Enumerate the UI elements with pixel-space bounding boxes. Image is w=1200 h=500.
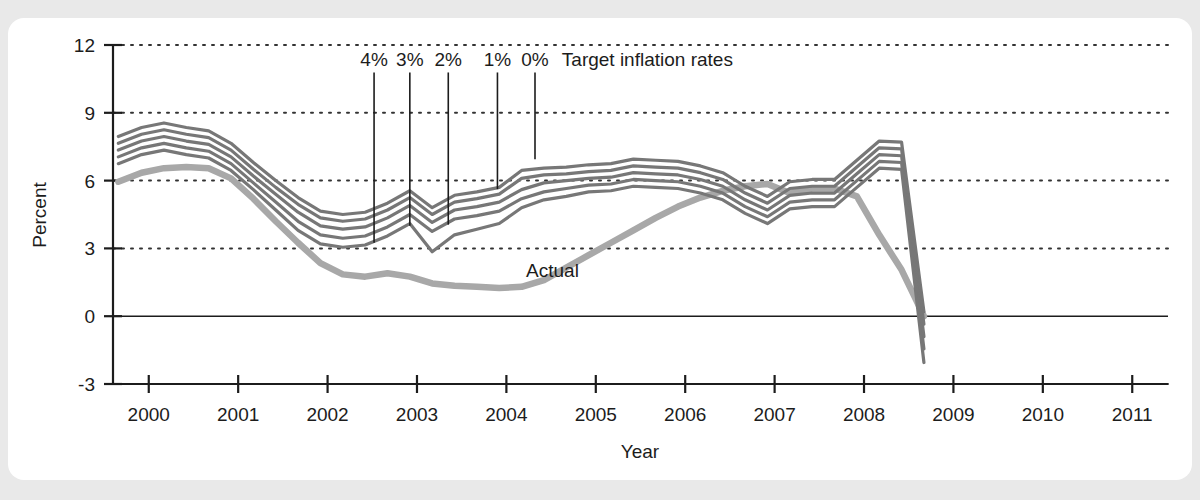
y-tick-label: 6 (84, 171, 95, 192)
y-tick-label: 3 (84, 238, 95, 259)
forecast-series-line (118, 130, 924, 324)
x-tick-label: 2007 (753, 404, 795, 425)
forecast-series-line (118, 123, 924, 312)
x-axis-ticks: 2000200120022003200420052006200720082009… (128, 375, 1153, 425)
chart-annotation: Target inflation rates (562, 49, 733, 70)
x-tick-label: 2001 (217, 404, 259, 425)
target-pointer-label: 3% (396, 49, 424, 70)
y-tick-label: 9 (84, 103, 95, 124)
x-tick-label: 2003 (396, 404, 438, 425)
forecast-series-line (118, 137, 924, 337)
y-tick-label: -3 (78, 374, 95, 395)
x-tick-label: 2008 (843, 404, 885, 425)
chart-annotation: Actual (526, 260, 579, 281)
target-pointer-label: 0% (521, 49, 549, 70)
x-tick-label: 2000 (128, 404, 170, 425)
x-tick-label: 2002 (306, 404, 348, 425)
chart-panel: 129630-3 2000200120022003200420052006200… (8, 18, 1192, 480)
forecast-series-group (118, 123, 924, 363)
target-pointer-label: 2% (435, 49, 463, 70)
x-tick-label: 2005 (575, 404, 617, 425)
target-pointer-label: 4% (360, 49, 388, 70)
x-tick-label: 2010 (1022, 404, 1064, 425)
x-tick-label: 2006 (664, 404, 706, 425)
target-pointer-label: 1% (484, 49, 512, 70)
y-tick-label: 0 (84, 306, 95, 327)
y-axis-title: Percent (29, 182, 50, 248)
x-tick-label: 2004 (485, 404, 528, 425)
x-tick-label: 2009 (932, 404, 974, 425)
target-pointer-labels: 4%3%2%1%0% (360, 49, 548, 70)
forecast-series-line (118, 143, 924, 349)
y-axis-ticks: 129630-3 (74, 35, 122, 395)
x-axis-title: Year (621, 441, 660, 462)
inflation-target-chart: 129630-3 2000200120022003200420052006200… (8, 18, 1192, 480)
x-tick-label: 2011 (1112, 404, 1153, 425)
y-tick-label: 12 (74, 35, 95, 56)
